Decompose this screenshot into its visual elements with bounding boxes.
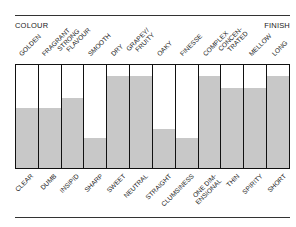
top-rule: [15, 15, 290, 16]
bottom-category-label: INSIPID: [59, 173, 81, 195]
bottom-category-label: CLEAR: [15, 173, 35, 193]
bar-fill: [244, 88, 266, 168]
bottom-category-label: THIN: [226, 173, 242, 189]
bar-fill: [39, 108, 61, 168]
bar-column: [130, 65, 153, 168]
finish-label: FINISH: [264, 21, 290, 30]
bar-column: [62, 65, 85, 168]
bottom-category-label: SPIRITY: [241, 173, 264, 196]
bottom-category-label: SHARP: [83, 173, 104, 194]
bar-column: [244, 65, 267, 168]
bar-fill: [221, 88, 243, 168]
top-category-label: GRAPEY/FRUITY: [125, 27, 156, 58]
top-category-label: OAKY: [156, 40, 174, 58]
bar-column: [39, 65, 62, 168]
bar-fill: [199, 76, 221, 168]
bar-column: [176, 65, 199, 168]
bar-fill: [62, 98, 84, 168]
bar-column: [199, 65, 222, 168]
top-category-label: DRY: [110, 43, 125, 58]
bar-fill: [176, 138, 198, 168]
bar-column: [84, 65, 107, 168]
bar-fill: [107, 76, 129, 168]
bar-column: [16, 65, 39, 168]
top-category-label: SMOOTH: [87, 33, 112, 58]
bottom-rule: [15, 217, 290, 218]
bar-column: [107, 65, 130, 168]
colour-label: COLOUR: [15, 21, 48, 30]
bar-column: [267, 65, 289, 168]
bar-fill: [153, 129, 175, 168]
bottom-category-label: DUMB: [40, 173, 59, 192]
bar-fill: [267, 76, 289, 168]
top-category-label: FINESSE: [179, 33, 204, 58]
bottom-category-label: SHORT: [266, 173, 287, 194]
top-category-label: MELLOW: [248, 33, 273, 58]
bar-fill: [130, 76, 152, 168]
bar-column: [221, 65, 244, 168]
bar-fill: [84, 138, 106, 168]
top-category-label: LONG: [271, 40, 289, 58]
bar-chart: [15, 64, 290, 169]
bar-column: [153, 65, 176, 168]
top-category-label: GOLDEN: [19, 33, 44, 58]
bar-fill: [16, 108, 38, 168]
